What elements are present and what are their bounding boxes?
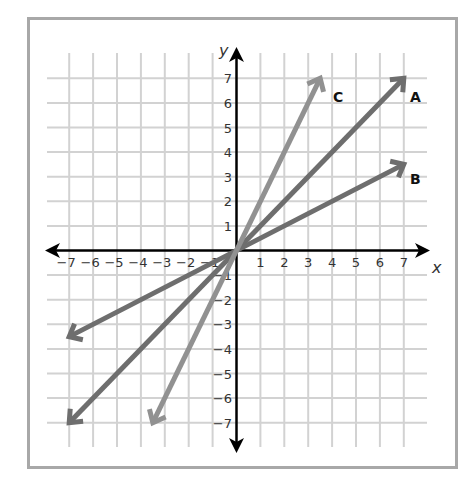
x-tick-label: 1 <box>256 255 264 270</box>
x-tick-label: −3 <box>152 255 171 270</box>
x-tick-label: 7 <box>400 255 408 270</box>
x-tick-label: −2 <box>176 255 195 270</box>
x-tick-label: −6 <box>81 255 100 270</box>
y-tick-label: 3 <box>224 170 232 185</box>
line-label-c: C <box>333 89 343 105</box>
x-tick-label: −4 <box>128 255 147 270</box>
coordinate-plane-figure: −7−6−5−4−3−2−11234567 7654321−1−2−3−4−5−… <box>0 0 475 479</box>
line-label-b: B <box>410 171 421 187</box>
x-tick-label: 2 <box>280 255 288 270</box>
y-tick-label: −3 <box>213 317 232 332</box>
x-axis-label: x <box>431 258 442 277</box>
y-tick-label: 4 <box>224 145 232 160</box>
line-label-a: A <box>410 89 421 105</box>
x-tick-label: 6 <box>376 255 384 270</box>
x-tick-label: −5 <box>104 255 123 270</box>
y-axis-label: y <box>218 41 229 60</box>
y-tick-label: 1 <box>224 219 232 234</box>
y-tick-label: −7 <box>213 416 232 431</box>
y-tick-label: −5 <box>213 367 232 382</box>
x-tick-label: −7 <box>57 255 76 270</box>
y-tick-label: 7 <box>224 71 232 86</box>
x-tick-label: 4 <box>328 255 336 270</box>
y-tick-label: 2 <box>224 194 232 209</box>
x-tick-label: 3 <box>304 255 312 270</box>
y-tick-label: −6 <box>213 391 232 406</box>
y-tick-label: 5 <box>224 121 232 136</box>
y-tick-label: −4 <box>213 342 232 357</box>
y-tick-label: 6 <box>224 96 232 111</box>
x-tick-label: 5 <box>352 255 360 270</box>
